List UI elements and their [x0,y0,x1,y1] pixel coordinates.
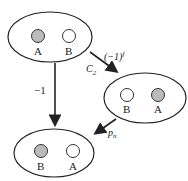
arrow-label-pn: pn [107,127,117,140]
state-bottom: B A [14,129,94,177]
particle-b-open [121,89,134,102]
arrow-label-operator: C2 [86,63,97,77]
arrow-label-factor: (−1)f [104,50,125,63]
particle-a-shaded [152,89,165,102]
state-right: B A [104,73,186,123]
particle-label: A [154,103,162,115]
particle-label: B [37,160,44,172]
particle-b-shaded [35,145,48,158]
particle-a-shaded [32,30,45,43]
particle-exchange-diagram: A B B A B A (−1)f C2 −1 pn [0,0,188,181]
arrow-label-minus-one: −1 [34,84,46,96]
particle-label: A [69,160,77,172]
particle-label: A [34,45,42,57]
particle-label: B [123,103,130,115]
particle-a-open [67,145,80,158]
particle-label: B [65,45,72,57]
arrow-right-to-bottom [96,119,116,133]
particle-b-open [63,30,76,43]
state-top: A B [8,12,92,62]
